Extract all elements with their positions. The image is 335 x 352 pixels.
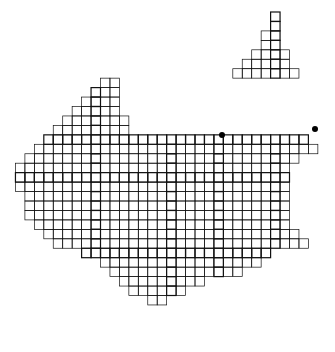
grid-cell <box>82 107 91 116</box>
grid-cell <box>138 135 147 144</box>
grid-cell <box>63 116 72 125</box>
grid-cell <box>252 258 261 267</box>
grid-cell <box>261 220 270 229</box>
grid-cell <box>280 163 289 172</box>
grid-cell <box>101 220 110 229</box>
grid-cell <box>119 229 128 238</box>
grid-cell <box>186 192 195 201</box>
grid-cell <box>101 229 110 238</box>
grid-cell <box>280 220 289 229</box>
grid-cell <box>204 239 213 248</box>
grid-cell <box>176 210 185 219</box>
grid-cell <box>82 163 91 172</box>
grid-cell <box>280 135 289 144</box>
grid-cell <box>91 116 100 125</box>
grid-cell <box>167 229 176 238</box>
grid-cell <box>44 210 53 219</box>
grid-cell <box>223 248 232 257</box>
grid-cell <box>157 210 166 219</box>
grid-cell <box>44 192 53 201</box>
grid-cell <box>157 173 166 182</box>
grid-cell <box>271 210 280 219</box>
grid-cell <box>233 173 242 182</box>
grid-cell <box>101 163 110 172</box>
grid-cell <box>252 229 261 238</box>
grid-cell <box>271 182 280 191</box>
grid-cell <box>167 267 176 276</box>
grid-cell <box>82 210 91 219</box>
grid-cell <box>25 154 34 163</box>
grid-cell <box>148 286 157 295</box>
grid-cell <box>223 163 232 172</box>
grid-cell <box>44 229 53 238</box>
grid-cell <box>82 220 91 229</box>
grid-cell <box>176 239 185 248</box>
grid-cell <box>63 173 72 182</box>
grid-cell <box>148 201 157 210</box>
grid-cell <box>167 286 176 295</box>
grid-cell <box>101 201 110 210</box>
grid-cell <box>233 192 242 201</box>
grid-cell <box>129 163 138 172</box>
grid-cell <box>290 154 299 163</box>
grid-cell <box>129 267 138 276</box>
grid-cell <box>195 163 204 172</box>
grid-cell <box>129 220 138 229</box>
grid-cell <box>53 135 62 144</box>
grid-cell <box>138 182 147 191</box>
grid-cell <box>261 135 270 144</box>
grid-cell <box>148 144 157 153</box>
grid-cell <box>167 154 176 163</box>
grid-cell <box>44 163 53 172</box>
grid-cell <box>195 135 204 144</box>
grid-cell <box>91 229 100 238</box>
grid-cell <box>138 144 147 153</box>
grid-cell <box>290 69 299 78</box>
location-markers <box>219 126 318 138</box>
grid-cell <box>242 154 251 163</box>
location-dot <box>219 132 225 138</box>
grid-cell <box>280 229 289 238</box>
grid-cell <box>176 173 185 182</box>
grid-cell <box>63 229 72 238</box>
grid-cell <box>82 154 91 163</box>
grid-cell <box>176 286 185 295</box>
grid-cell <box>271 59 280 68</box>
grid-cell <box>271 12 280 21</box>
grid-cell <box>91 163 100 172</box>
grid-cell <box>34 182 43 191</box>
grid-cell <box>242 239 251 248</box>
grid-cell <box>91 88 100 97</box>
grid-cell <box>242 173 251 182</box>
grid-cell <box>101 173 110 182</box>
grid-cell <box>204 220 213 229</box>
grid-cell <box>242 192 251 201</box>
grid-cell <box>252 220 261 229</box>
grid-cell <box>167 258 176 267</box>
grid-cell <box>110 229 119 238</box>
grid-cell <box>157 135 166 144</box>
grid-cell <box>110 125 119 134</box>
grid-cell <box>186 135 195 144</box>
grid-cell <box>176 258 185 267</box>
grid-cell <box>138 267 147 276</box>
grid-cell <box>280 239 289 248</box>
grid-cell <box>223 192 232 201</box>
grid-cell <box>148 173 157 182</box>
grid-cell <box>261 248 270 257</box>
grid-cell <box>63 144 72 153</box>
grid-cell <box>53 210 62 219</box>
grid-cell <box>271 239 280 248</box>
grid-cell <box>101 78 110 87</box>
grid-cell <box>204 192 213 201</box>
grid-cell <box>119 267 128 276</box>
grid-cell <box>91 220 100 229</box>
grid-cell <box>242 248 251 257</box>
grid-cell <box>63 192 72 201</box>
grid-cell <box>91 173 100 182</box>
grid-cell <box>157 296 166 305</box>
grid-cell <box>53 125 62 134</box>
grid-cell <box>157 154 166 163</box>
grid-cell <box>119 210 128 219</box>
grid-cell <box>110 267 119 276</box>
